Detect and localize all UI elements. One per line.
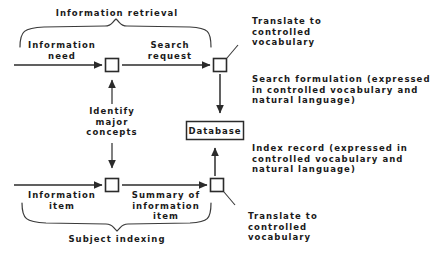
leader-translate-bottom	[224, 192, 235, 205]
label-translate-to-controlled-vocabulary-bottom: Translate to controlled vocabulary	[248, 211, 378, 243]
label-information-retrieval: Information retrieval	[22, 8, 212, 19]
process-box-ir-translate[interactable]	[214, 59, 227, 72]
label-identify-major-concepts: Identify major concepts	[72, 106, 152, 138]
diagram-canvas: Information retrieval Information need S…	[0, 0, 448, 256]
label-summary-of-information-item: Summary of information item	[124, 190, 208, 222]
label-information-need: Information need	[14, 40, 110, 61]
label-translate-to-controlled-vocabulary-top: Translate to controlled vocabulary	[252, 16, 382, 48]
label-subject-indexing: Subject indexing	[22, 234, 212, 245]
label-information-item: Information item	[14, 190, 110, 211]
label-search-request: Search request	[128, 40, 212, 61]
label-index-record: Index record (expressed in controlled vo…	[252, 143, 448, 175]
label-database: Database	[186, 122, 244, 140]
process-box-si-translate[interactable]	[211, 179, 224, 192]
leader-translate-top	[227, 45, 238, 58]
label-search-formulation: Search formulation (expressed in control…	[252, 74, 448, 106]
